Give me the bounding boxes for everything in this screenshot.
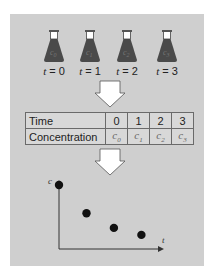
flask-lip	[49, 30, 59, 32]
table-cell: 2	[150, 113, 172, 129]
flask-row: c0t = 0c1t = 1c2t = 2c3t = 3	[43, 30, 178, 77]
flask-body	[157, 39, 177, 62]
flask-0: c0t = 0	[43, 30, 65, 77]
table-row-time: Time 0 1 2 3	[26, 113, 194, 129]
table-row-concentration: Concentration c0 c1 c2 c3	[26, 129, 194, 145]
flask-neck	[51, 31, 58, 39]
time-label: t = 1	[79, 65, 101, 77]
flask-2: c2t = 2	[116, 30, 138, 77]
data-point-2	[110, 224, 118, 232]
flask-neck	[164, 31, 171, 39]
flask-neck	[124, 31, 131, 39]
table-cell: c1	[128, 129, 150, 145]
data-point-0	[55, 181, 63, 189]
table-cell: 3	[172, 113, 194, 129]
scatter-plot: c t	[48, 176, 165, 252]
table-cell: 0	[106, 113, 128, 129]
row-header: Concentration	[26, 129, 106, 145]
down-arrow-2	[95, 149, 125, 175]
table-cell: c2	[150, 129, 172, 145]
x-axis-label: t	[162, 235, 165, 245]
flask-lip	[162, 30, 172, 32]
flask-body	[80, 39, 100, 62]
flask-lip	[122, 30, 132, 32]
x-axis-arrow-icon	[158, 246, 164, 252]
flask-lip	[85, 30, 95, 32]
data-point-1	[82, 209, 90, 217]
table-cell: c3	[172, 129, 194, 145]
table-cell: 1	[128, 113, 150, 129]
time-label: t = 2	[116, 65, 138, 77]
data-table: Time 0 1 2 3 Concentration c0 c1 c2 c3	[25, 112, 194, 145]
flask-body	[44, 39, 64, 62]
flask-neck	[87, 31, 94, 39]
flask-3: c3t = 3	[156, 30, 178, 77]
table-cell: c0	[106, 129, 128, 145]
y-axis-label: c	[48, 176, 52, 186]
flask-body	[117, 39, 137, 62]
flask-1: c1t = 1	[79, 30, 101, 77]
time-label: t = 3	[156, 65, 178, 77]
row-header: Time	[26, 113, 106, 129]
down-arrow-1	[95, 81, 125, 107]
time-label: t = 0	[43, 65, 65, 77]
data-point-3	[137, 231, 145, 239]
